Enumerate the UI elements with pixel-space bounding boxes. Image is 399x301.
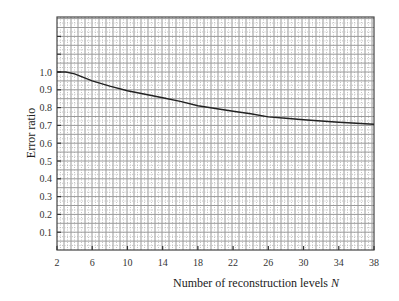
x-tick-label: 18 (193, 257, 203, 268)
y-tick-label: 0.1 (40, 227, 53, 238)
y-axis-label: Error ratio (24, 108, 38, 158)
y-tick-label: 0.8 (40, 102, 53, 113)
x-tick-label: 10 (122, 257, 132, 268)
x-tick-label: 34 (334, 257, 344, 268)
y-tick-label: 1.0 (40, 67, 53, 78)
y-tick-label: 0.2 (40, 209, 53, 220)
y-tick-label: 0.4 (40, 173, 53, 184)
y-tick-label: 0.3 (40, 191, 53, 202)
x-tick-label: 26 (263, 257, 273, 268)
x-tick-label: 38 (369, 257, 379, 268)
y-tick-label: 0.9 (40, 84, 53, 95)
y-tick-label: 0.5 (40, 156, 53, 167)
grid (57, 17, 374, 250)
x-tick-label: 6 (90, 257, 95, 268)
x-tick-label: 14 (158, 257, 168, 268)
x-tick-label: 30 (299, 257, 309, 268)
y-tick-label: 0.7 (40, 120, 53, 131)
x-tick-label: 22 (228, 257, 238, 268)
y-axis-ticks: 0.10.20.30.40.50.60.70.80.91.0 (40, 36, 62, 237)
x-axis-label: Number of reconstruction levels N (173, 276, 340, 290)
x-tick-label: 2 (55, 257, 60, 268)
error-ratio-chart: 0.10.20.30.40.50.60.70.80.91.0 261014182… (0, 0, 399, 301)
y-tick-label: 0.6 (40, 138, 53, 149)
